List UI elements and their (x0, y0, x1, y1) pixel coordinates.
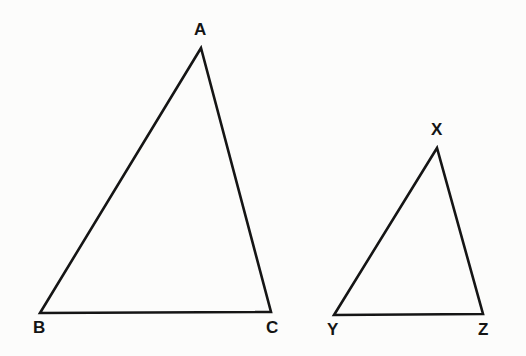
vertex-label-c: C (266, 319, 278, 336)
vertex-label-a: A (194, 21, 206, 38)
vertex-label-b: B (33, 319, 45, 336)
small-triangle-xyz (334, 148, 483, 315)
vertex-label-z: Z (478, 321, 488, 338)
large-triangle-abc (40, 48, 271, 313)
vertex-label-x: X (431, 121, 442, 138)
diagram-canvas: A B C X Y Z (0, 0, 526, 356)
geometry-figure (0, 0, 526, 356)
vertex-label-y: Y (327, 321, 338, 338)
